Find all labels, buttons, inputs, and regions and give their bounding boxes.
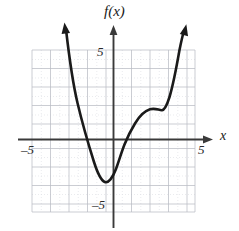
function-label: f(x) [104,3,125,20]
x-tick-label-negative-5: –5 [21,142,34,158]
curve-left-arrowhead [60,22,70,34]
y-axis-arrowhead [110,25,118,35]
y-tick-label-negative-5: –5 [92,197,105,213]
x-tick-label-positive-5: 5 [198,142,205,158]
y-tick-label-positive-5: 5 [97,44,104,60]
x-axis-label: x [220,128,226,144]
graph-canvas [0,0,239,231]
curve-right-arrowhead [180,23,191,36]
function-graph-figure: f(x) x –5 5 5 –5 [0,0,239,231]
